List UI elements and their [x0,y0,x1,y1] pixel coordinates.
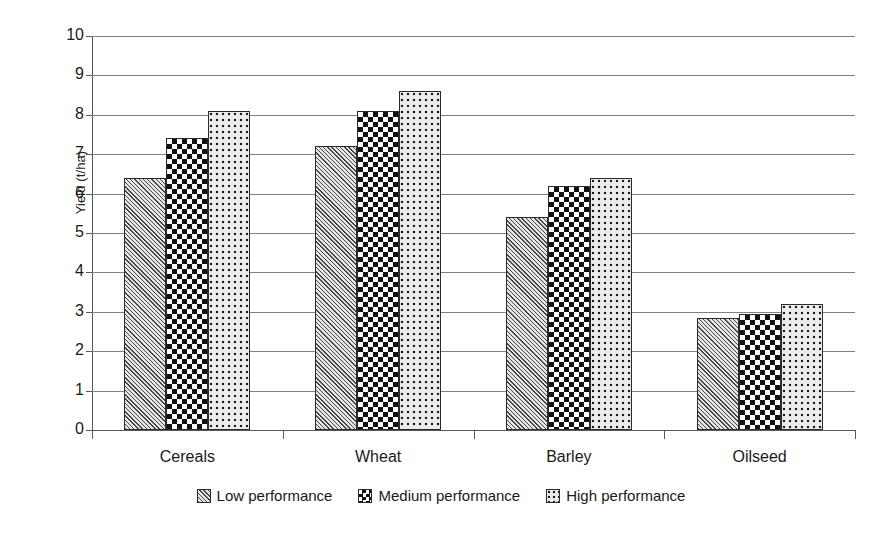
y-axis-tick-label: 5 [58,224,84,240]
legend-swatch-diagonal-hatch-icon [197,489,211,503]
y-axis-tick-label: 1 [58,382,84,398]
bar-wheat-diagonal-hatch [315,146,357,430]
legend-entry[interactable]: Low performance [197,487,333,504]
bar-barley-dotted [590,178,632,430]
bar-wheat-dotted [399,91,441,430]
bar-oilseed-checkerboard [739,314,781,430]
gridline [92,115,855,116]
gridline [92,36,855,37]
plot-area [92,36,855,430]
x-axis-category-label: Oilseed [690,448,830,466]
y-axis-tick-label: 6 [58,185,84,201]
x-axis-category-label: Wheat [308,448,448,466]
legend-swatch-checkerboard-icon [358,489,372,503]
legend-label: Medium performance [378,487,520,504]
y-axis-tick-labels: 109876543210 [52,0,84,535]
bar-oilseed-diagonal-hatch [697,318,739,430]
x-axis-group-divider-tick [474,430,475,439]
x-axis-category-label: Cereals [117,448,257,466]
y-axis-tick-label: 4 [58,263,84,279]
legend-label: High performance [566,487,685,504]
legend-entry[interactable]: High performance [546,487,685,504]
y-axis-tick-label: 8 [58,106,84,122]
bar-chart: Yield (t/ha) 109876543210 CerealsWheatBa… [0,0,882,535]
y-axis-tick-label: 7 [58,145,84,161]
y-axis-tick-label: 10 [58,27,84,43]
bar-cereals-checkerboard [166,138,208,430]
legend-swatch-dotted-icon [546,489,560,503]
bar-oilseed-dotted [781,304,823,430]
chart-legend: Low performanceMedium performanceHigh pe… [0,487,882,504]
gridline [92,75,855,76]
bar-barley-diagonal-hatch [506,217,548,430]
bar-cereals-diagonal-hatch [124,178,166,430]
y-axis-tick-label: 2 [58,342,84,358]
bar-barley-checkerboard [548,186,590,430]
y-axis-tick-label: 0 [58,421,84,437]
y-axis-tick-label: 9 [58,66,84,82]
y-axis-tick-label: 3 [58,303,84,319]
legend-label: Low performance [217,487,333,504]
legend-entry[interactable]: Medium performance [358,487,520,504]
x-axis-group-divider-tick [283,430,284,439]
bar-wheat-checkerboard [357,111,399,430]
bar-cereals-dotted [208,111,250,430]
x-axis-category-label: Barley [499,448,639,466]
x-axis-end-tick [92,430,93,439]
x-axis-group-divider-tick [664,430,665,439]
x-axis-end-tick [855,430,856,439]
